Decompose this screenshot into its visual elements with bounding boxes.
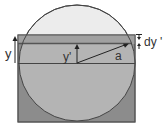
dy-prime-arrowhead-bottom	[137, 43, 141, 46]
label-a: a	[115, 49, 122, 63]
strip-band	[18, 35, 135, 44]
label-dy-prime: dy '	[144, 35, 162, 49]
label-y: y	[5, 46, 12, 61]
dy-prime-arrowhead-top	[137, 37, 141, 40]
y-arrowhead	[13, 36, 18, 41]
diagram: y y' a dy '	[0, 0, 167, 129]
label-y-prime: y'	[63, 50, 71, 64]
